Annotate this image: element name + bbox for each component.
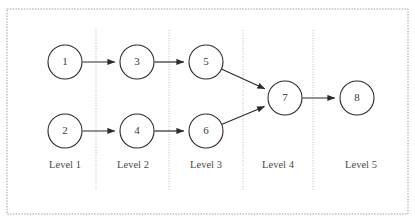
node-label-5: 5	[203, 55, 209, 67]
layered-graph-diagram: 12345678 Level 1Level 2Level 3Level 4Lev…	[0, 0, 415, 220]
level-labels: Level 1Level 2Level 3Level 4Level 5	[49, 159, 377, 170]
node-5[interactable]: 5	[189, 45, 223, 79]
diagram-canvas: 12345678 Level 1Level 2Level 3Level 4Lev…	[0, 0, 415, 220]
node-label-1: 1	[62, 55, 68, 67]
node-label-7: 7	[282, 91, 288, 103]
node-8[interactable]: 8	[340, 81, 374, 115]
node-label-4: 4	[134, 124, 140, 136]
level-label-5: Level 5	[345, 159, 377, 170]
node-label-2: 2	[62, 124, 68, 136]
node-6[interactable]: 6	[189, 114, 223, 148]
node-7[interactable]: 7	[268, 81, 302, 115]
node-label-8: 8	[354, 91, 360, 103]
node-label-3: 3	[134, 55, 140, 67]
node-4[interactable]: 4	[120, 114, 154, 148]
node-3[interactable]: 3	[120, 45, 154, 79]
node-label-6: 6	[203, 124, 209, 136]
node-1[interactable]: 1	[48, 45, 82, 79]
level-label-3: Level 3	[190, 159, 222, 170]
node-2[interactable]: 2	[48, 114, 82, 148]
level-label-1: Level 1	[49, 159, 81, 170]
level-label-4: Level 4	[262, 159, 295, 170]
level-label-2: Level 2	[117, 159, 149, 170]
nodes: 12345678	[48, 45, 374, 148]
